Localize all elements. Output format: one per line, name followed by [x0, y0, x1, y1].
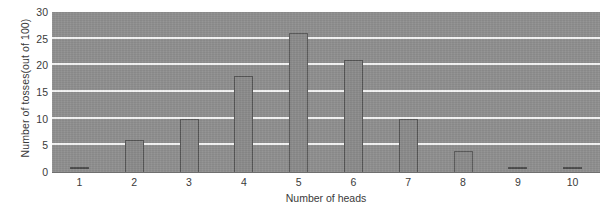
- x-tick-label: 10: [567, 176, 579, 188]
- x-tick-label: 4: [241, 176, 247, 188]
- gridline-25: [52, 37, 600, 39]
- bar-8: [454, 151, 473, 172]
- y-tick-label: 5: [42, 139, 48, 151]
- x-tick-label: 8: [460, 176, 466, 188]
- x-tick-label: 6: [350, 176, 356, 188]
- x-axis-line: [52, 172, 600, 173]
- bar-3: [180, 119, 199, 172]
- gridline-15: [52, 90, 600, 92]
- y-tick-label: 0: [42, 166, 48, 178]
- bar-chart-figure: Number of tosses(out of 100) 05101520253…: [0, 0, 610, 211]
- x-tick-label: 3: [186, 176, 192, 188]
- bar-6: [344, 60, 363, 172]
- y-axis-tick-labels: 051015202530: [26, 0, 48, 211]
- y-tick-label: 10: [36, 113, 48, 125]
- bar-7: [399, 119, 418, 172]
- bar-2: [125, 140, 144, 172]
- gridline-20: [52, 63, 600, 65]
- gridline-10: [52, 117, 600, 119]
- plot-area: [52, 12, 600, 172]
- x-tick-label: 7: [405, 176, 411, 188]
- y-tick-label: 25: [36, 33, 48, 45]
- x-tick-label: 1: [76, 176, 82, 188]
- x-tick-label: 2: [131, 176, 137, 188]
- y-tick-label: 20: [36, 59, 48, 71]
- x-tick-label: 5: [296, 176, 302, 188]
- y-tick-label: 30: [36, 6, 48, 18]
- y-tick-label: 15: [36, 86, 48, 98]
- x-axis-label: Number of heads: [52, 192, 600, 204]
- bar-5: [289, 33, 308, 172]
- x-tick-label: 9: [515, 176, 521, 188]
- bar-4: [234, 76, 253, 172]
